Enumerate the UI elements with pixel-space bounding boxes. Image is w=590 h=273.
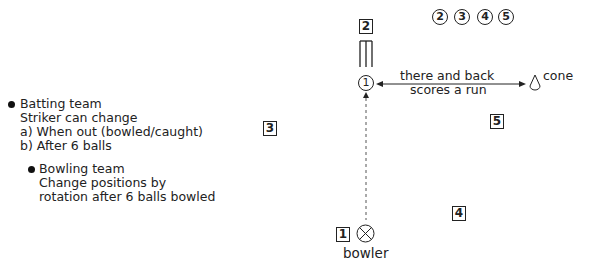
batting-line: a) When out (bowled/caught) — [20, 124, 203, 139]
fielder-2-marker: 2 — [359, 19, 373, 34]
bowling-heading: Bowling team — [39, 161, 125, 176]
bowler-icon — [356, 224, 375, 243]
bowling-path-arrow-icon — [362, 92, 370, 222]
wicket-icon — [357, 40, 375, 68]
batter-marker: 2 — [432, 9, 448, 25]
cone-icon — [528, 74, 542, 92]
batting-line: b) After 6 balls — [20, 138, 112, 153]
fielder-5-marker: 5 — [490, 114, 504, 129]
bullet-icon — [28, 166, 35, 173]
bullet-icon — [8, 101, 15, 108]
batter-marker: 5 — [498, 9, 514, 25]
batter-marker: 3 — [454, 9, 470, 25]
cone-label: cone — [543, 68, 573, 83]
run-label-line2: scores a run — [410, 82, 487, 97]
fielder-4-marker: 4 — [452, 206, 466, 221]
batting-line: Striker can change — [20, 110, 137, 125]
run-label-line1: there and back — [400, 68, 494, 83]
bowling-line: Change positions by — [39, 175, 166, 190]
batting-heading: Batting team — [20, 96, 102, 111]
striker-marker: 1 — [358, 75, 374, 91]
fielder-1-marker: 1 — [336, 227, 350, 242]
batter-marker: 4 — [477, 9, 493, 25]
fielder-3-marker: 3 — [263, 121, 277, 136]
bowler-label: bowler — [343, 246, 388, 261]
bowling-line: rotation after 6 balls bowled — [39, 189, 215, 204]
